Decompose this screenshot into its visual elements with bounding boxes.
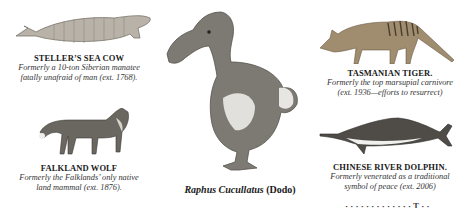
dodo-panel: Raphus Cucullatus (Dodo) <box>170 184 310 195</box>
river-dolphin-panel: CHINESE RIVER DOLPHIN. Formerly venerate… <box>310 162 470 192</box>
dodo-scientific-name: Raphus Cucullatus <box>184 184 263 195</box>
sea-cow-panel: STELLER’S SEA COW Formerly a 10-ton Sibe… <box>0 53 158 83</box>
dodo-illustration <box>165 6 305 178</box>
river-dolphin-title: CHINESE RIVER DOLPHIN. <box>310 162 470 172</box>
sea-cow-illustration <box>14 8 154 48</box>
falkland-wolf-caption-2: land mammal (ext. 1876). <box>0 183 158 193</box>
tasmanian-tiger-caption-2: (ext. 1936—efforts to resurrect) <box>310 88 470 98</box>
falkland-wolf-title: FALKLAND WOLF <box>0 163 158 173</box>
wolf-illustration <box>36 108 132 156</box>
clipped-bottom-text: · · · · · · · · · · · · · T · · <box>0 200 470 208</box>
clipped-text-fragment: · · · · · · · · · · · · · T · · <box>345 201 429 208</box>
tasmanian-tiger-caption-1: Formerly the top marsupial carnivore <box>310 78 470 88</box>
falkland-wolf-panel: FALKLAND WOLF Formerly the Falklands’ on… <box>0 163 158 193</box>
tasmanian-tiger-title: TASMANIAN TIGER. <box>310 68 470 78</box>
dolphin-illustration <box>318 112 454 156</box>
sea-cow-title: STELLER’S SEA COW <box>0 53 158 63</box>
river-dolphin-caption-2: symbol of peace (ext. 2006) <box>310 182 470 192</box>
tasmanian-tiger-panel: TASMANIAN TIGER. Formerly the top marsup… <box>310 68 470 98</box>
sea-cow-caption-1: Formerly a 10-ton Siberian manatee <box>0 63 158 73</box>
falkland-wolf-caption-1: Formerly the Falklands’ only native <box>0 173 158 183</box>
thylacine-illustration <box>318 8 458 64</box>
dodo-common-name: (Dodo) <box>264 184 296 195</box>
river-dolphin-caption-1: Formerly venerated as a traditional <box>310 172 470 182</box>
sea-cow-caption-2: fatally unafraid of man (ext. 1768). <box>0 73 158 83</box>
